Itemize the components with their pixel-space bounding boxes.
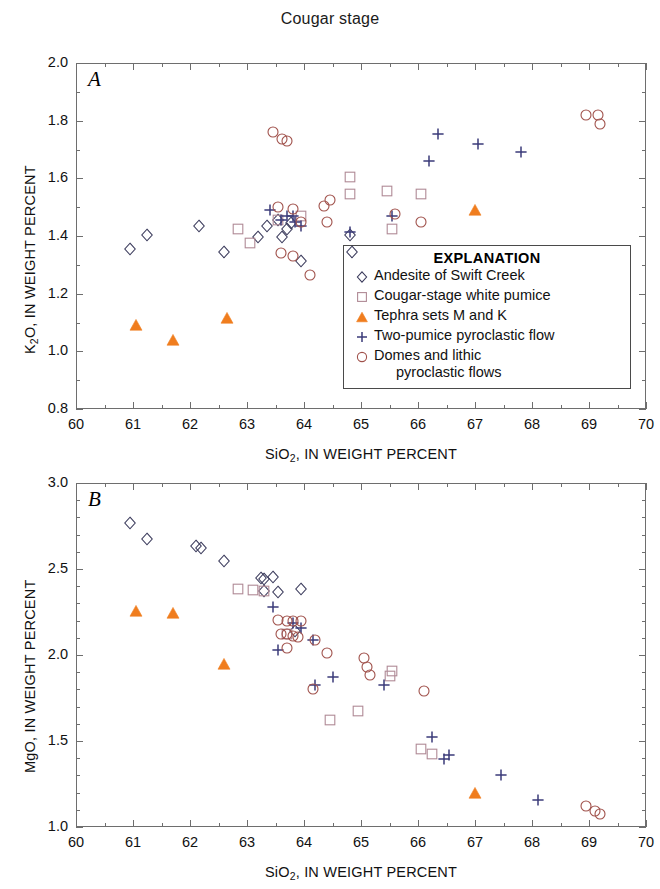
panel-a-y-tick xyxy=(76,351,83,352)
panel-b-x-tick-top xyxy=(646,483,647,490)
data-point-diamond-open xyxy=(122,515,138,531)
panel-a-x-tick-top xyxy=(247,63,248,70)
panel-b-x-tick-top xyxy=(361,483,362,490)
data-point-circle-open xyxy=(293,214,309,230)
panel-a-y-tick xyxy=(76,121,83,122)
data-point-circle-open xyxy=(305,681,321,697)
panel-b-y-tick xyxy=(76,810,80,811)
panel-a-y-tick-right xyxy=(642,92,646,93)
data-point-diamond-open xyxy=(216,553,232,569)
panel-b-y-tick-right xyxy=(642,793,646,794)
panel-a-x-tick-top xyxy=(219,63,220,67)
panel-b-x-tick-top xyxy=(618,483,619,487)
panel-b-x-tick xyxy=(646,820,647,827)
panel-a-x-tick xyxy=(76,402,77,409)
data-point-square-open xyxy=(350,703,366,719)
panel-b-x-tick xyxy=(333,823,334,827)
panel-a-x-tick xyxy=(447,405,448,409)
panel-a-x-tick-top xyxy=(504,63,505,67)
legend-label-4-line2: pyroclastic flows xyxy=(396,364,502,381)
legend-item-2: Tephra sets M and K xyxy=(352,307,630,326)
data-point-diamond-open xyxy=(270,584,286,600)
legend-symbol-2 xyxy=(352,307,374,326)
panel-a-y-ticklabel: 1.2 xyxy=(22,285,68,301)
panel-a-y-tick xyxy=(76,92,80,93)
panel-a-x-tick xyxy=(133,402,134,409)
panel-b-x-tick xyxy=(105,823,106,827)
panel-b-x-tick-top xyxy=(304,483,305,490)
panel-a-y-ticklabel: 1.6 xyxy=(22,169,68,185)
panel-b-x-tick-top xyxy=(333,483,334,487)
panel-b-y-tick xyxy=(76,758,80,759)
panel-b-y-tick xyxy=(76,793,80,794)
panel-b-y-tick-right xyxy=(642,810,646,811)
panel-b-x-tick-top xyxy=(532,483,533,490)
data-point-square-open xyxy=(242,235,258,251)
circle-open-marker xyxy=(354,349,370,365)
panel-a-x-ticklabel: 60 xyxy=(56,416,96,432)
panel-b-y-tick xyxy=(76,603,80,604)
panel-b-x-axis-label: SiO2, IN WEIGHT PERCENT xyxy=(76,864,646,882)
legend-label-0: Andesite of Swift Creek xyxy=(374,267,525,284)
panel-b-y-tick-right xyxy=(642,586,646,587)
legend-item-0: Andesite of Swift Creek xyxy=(352,267,630,286)
legend-rows: Andesite of Swift CreekCougar-stage whit… xyxy=(344,267,630,381)
data-point-square-open xyxy=(256,583,272,599)
panel-b-x-ticklabel: 67 xyxy=(455,834,495,850)
panel-b-y-tick-right xyxy=(642,672,646,673)
data-point-diamond-open xyxy=(216,244,232,260)
panel-a-x-ticklabel: 63 xyxy=(227,416,267,432)
data-point-circle-open xyxy=(416,683,432,699)
panel-b-y-tick-right xyxy=(642,707,646,708)
panel-b-x-ticklabel: 62 xyxy=(170,834,210,850)
panel-b-y-tick-right xyxy=(639,827,646,828)
panel-b-x-tick xyxy=(532,820,533,827)
panel-b-y-tick xyxy=(76,569,83,570)
panel-a-y-tick xyxy=(76,150,80,151)
panel-b-y-ticklabel: 1.5 xyxy=(22,732,68,748)
panel-b-x-ticklabel: 63 xyxy=(227,834,267,850)
data-point-triangle-filled xyxy=(128,317,144,333)
panel-b-x-tick-top xyxy=(162,483,163,487)
panel-b-y-tick-right xyxy=(642,638,646,639)
panel-a-x-tick xyxy=(247,402,248,409)
panel-b-x-tick-top xyxy=(276,483,277,487)
data-point-triangle-filled xyxy=(165,332,181,348)
diamond-open-marker xyxy=(354,269,370,285)
data-point-square-open xyxy=(342,169,358,185)
data-point-circle-open xyxy=(413,214,429,230)
panel-b-x-tick-top xyxy=(390,483,391,487)
panel-b-y-tick xyxy=(76,672,80,673)
square-open-marker xyxy=(354,289,370,305)
data-point-triangle-filled xyxy=(128,603,144,619)
panel-b-x-tick-top xyxy=(561,483,562,487)
panel-b-x-ticklabel: 64 xyxy=(284,834,324,850)
data-point-plus xyxy=(513,144,529,160)
data-point-diamond-open xyxy=(193,540,209,556)
panel-a-y-tick-right xyxy=(642,207,646,208)
panel-a-y-ticklabel: 2.0 xyxy=(22,54,68,70)
panel-b-y-tick-right xyxy=(639,483,646,484)
panel-a-x-tick-top xyxy=(561,63,562,67)
panel-a-x-tick xyxy=(418,402,419,409)
panel-b-y-tick xyxy=(76,741,83,742)
panel-a-y-ticklabel: 0.8 xyxy=(22,400,68,416)
plus-marker xyxy=(354,329,370,345)
panel-a-y-tick-right xyxy=(639,63,646,64)
panel-b-x-tick xyxy=(76,820,77,827)
panel-a-x-tick-top xyxy=(276,63,277,67)
panel-b-y-tick xyxy=(76,483,83,484)
legend-symbol-1 xyxy=(352,287,374,306)
panel-a-y-tick-right xyxy=(639,294,646,295)
panel-b-y-tick xyxy=(76,707,80,708)
panel-b-y-tick xyxy=(76,724,80,725)
panel-b-y-tick xyxy=(76,535,80,536)
data-point-circle-open xyxy=(592,806,608,822)
legend-symbol-3 xyxy=(352,327,374,346)
panel-b-letter: B xyxy=(88,487,101,512)
panel-a-x-tick-top xyxy=(133,63,134,70)
data-point-circle-open xyxy=(319,214,335,230)
panel-b-y-tick xyxy=(76,689,80,690)
panel-b-x-tick xyxy=(504,823,505,827)
panel-a-x-tick xyxy=(219,405,220,409)
